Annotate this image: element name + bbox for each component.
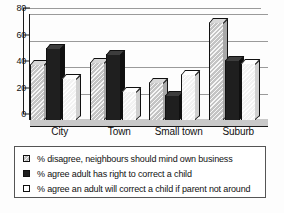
bar <box>149 82 164 120</box>
bar <box>165 95 180 120</box>
x-tick-label-town: Town <box>90 126 150 138</box>
y-tick-label-40: 40 <box>16 57 26 66</box>
bar-chart-figure: 020406080 CityTownSmall townSuburb % dis… <box>0 0 284 213</box>
bar <box>62 78 77 120</box>
chart-legend: % disagree, neighbours should mind own b… <box>14 146 266 198</box>
legend-item-label: % agree adult has right to correct a chi… <box>37 169 192 179</box>
x-tick-label-city: City <box>30 126 90 138</box>
legend-item-label: % agree an adult will correct a child if… <box>37 184 250 194</box>
x-tick-label-suburb: Suburb <box>209 126 269 138</box>
plot-area: 020406080 <box>30 14 268 120</box>
bar <box>30 64 45 120</box>
floor-back-edge <box>23 8 261 9</box>
bar <box>122 91 137 120</box>
x-axis-tick-labels: CityTownSmall townSuburb <box>30 126 268 138</box>
bar-side-face <box>76 74 81 120</box>
bar-group <box>30 14 90 120</box>
bar-groups <box>30 14 268 120</box>
bar <box>46 48 61 120</box>
bar-side-face <box>195 70 200 120</box>
bar <box>209 22 224 120</box>
bar <box>90 62 105 120</box>
legend-item-label: % disagree, neighbours should mind own b… <box>37 154 233 164</box>
y-tick-label-0: 0 <box>21 110 26 119</box>
bar <box>225 60 240 120</box>
bar-group <box>149 14 209 120</box>
y-tick-label-20: 20 <box>16 83 26 92</box>
legend-item[interactable]: % disagree, neighbours should mind own b… <box>23 151 265 166</box>
legend-item[interactable]: % agree an adult will correct a child if… <box>23 181 265 196</box>
bar <box>106 54 121 120</box>
x-tick-label-small-town: Small town <box>149 126 209 138</box>
legend-swatch-icon <box>23 185 30 192</box>
legend-swatch-icon <box>23 170 30 177</box>
bar <box>241 63 256 120</box>
y-tick-label-60: 60 <box>16 30 26 39</box>
legend-item[interactable]: % agree adult has right to correct a chi… <box>23 166 265 181</box>
bar-side-face <box>136 88 141 120</box>
bar-group <box>209 14 269 120</box>
bar-side-face <box>255 60 260 120</box>
bar-group <box>90 14 150 120</box>
bar <box>181 74 196 120</box>
legend-swatch-icon <box>23 155 30 162</box>
y-tick-label-80: 80 <box>16 4 26 13</box>
